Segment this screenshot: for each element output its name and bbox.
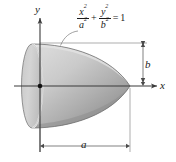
fraction-numerator-x: x2: [77, 6, 88, 17]
equation-right-hand-side: 1: [120, 13, 125, 23]
equation-equals-sign: =: [113, 13, 119, 23]
origin-dot: [38, 84, 43, 89]
fraction-denominator-a: a2: [77, 19, 89, 30]
figure-canvas: y x b a x2 a2 + y2 b2 = 1: [0, 0, 176, 162]
dimension-arrow-a-left: [40, 144, 44, 148]
ellipse-equation: x2 a2 + y2 b2 = 1: [76, 6, 125, 31]
denominator-b-base: b: [101, 20, 106, 31]
dimension-arrow-a-right: [126, 144, 130, 148]
y-axis-label: y: [35, 4, 40, 15]
dimension-label-b: b: [145, 59, 151, 70]
fraction-denominator-b: b2: [99, 19, 111, 30]
x-axis-label: x: [160, 80, 165, 91]
fraction-y-over-b: y2 b2: [99, 6, 111, 31]
numerator-y-exponent: 2: [105, 3, 108, 9]
denominator-b-exponent: 2: [106, 16, 109, 22]
numerator-x-exponent: 2: [84, 3, 87, 9]
denominator-a-exponent: 2: [84, 16, 87, 22]
equation-plus-operator: +: [91, 13, 97, 23]
dimension-label-a: a: [81, 139, 87, 150]
dimension-arrow-b-top: [141, 43, 145, 47]
dimension-arrow-b-bottom: [141, 82, 145, 86]
fraction-x-over-a: x2 a2: [77, 6, 89, 31]
